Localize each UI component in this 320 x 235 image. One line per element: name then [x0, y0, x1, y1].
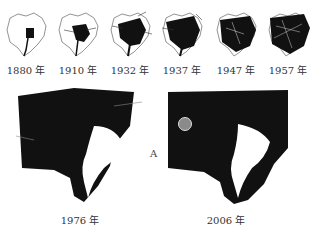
map-1957 — [266, 10, 312, 58]
map-1880 — [4, 10, 50, 58]
map-2006 — [164, 88, 294, 206]
map-1932 — [108, 10, 154, 58]
year-label-2006: 2006 年 — [207, 212, 246, 227]
year-label-1976: 1976 年 — [61, 212, 100, 227]
year-label-1937: 1937 年 — [163, 62, 202, 77]
marker-label-a: A — [150, 148, 157, 159]
year-label-1957: 1957 年 — [269, 62, 308, 77]
year-label-1932: 1932 年 — [111, 62, 150, 77]
map-1937 — [160, 10, 206, 58]
year-label-1947: 1947 年 — [217, 62, 256, 77]
map-1910 — [56, 10, 102, 58]
year-label-1910: 1910 年 — [59, 62, 98, 77]
marker-point-a — [178, 117, 192, 131]
map-1947 — [214, 10, 260, 58]
year-label-1880: 1880 年 — [7, 62, 46, 77]
map-1976 — [14, 86, 144, 204]
